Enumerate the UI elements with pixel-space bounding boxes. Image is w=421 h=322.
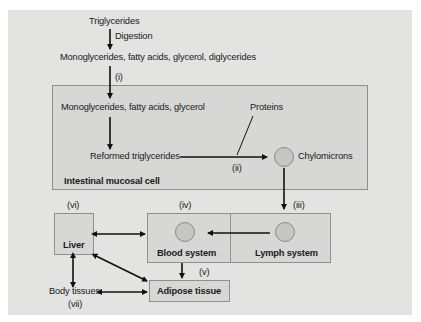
adipose-tissue-label: Adipose tissue (157, 286, 221, 296)
proteins-label: Proteins (250, 102, 283, 112)
blood-system-label: Blood system (157, 248, 216, 258)
body-tissues-label: Body tissues (49, 286, 100, 296)
digestion-products-label: Monoglycerides, fatty acids, glycerol, d… (60, 52, 256, 62)
absorbed-products-label: Monoglycerides, fatty acids, glycerol (61, 102, 205, 112)
liver-adipose-arrow (96, 256, 147, 281)
step-vii-label: (vii) (68, 299, 82, 309)
digestion-label: Digestion (115, 31, 152, 41)
step-iv-label: (iv) (179, 200, 191, 210)
triglycerides-label: Triglycerides (89, 16, 139, 26)
intestinal-cell-label: Intestinal mucosal cell (64, 176, 160, 186)
liver-label: Liver (63, 240, 84, 250)
arrows-layer (0, 0, 421, 322)
step-v-label: (v) (199, 267, 209, 277)
lymph-system-label: Lymph system (255, 248, 318, 258)
chylomicrons-label: Chylomicrons (298, 151, 353, 161)
reformed-triglycerides-label: Reformed triglycerides (90, 151, 180, 161)
step-vi-label: (vi) (67, 200, 79, 210)
proteins-line (237, 116, 253, 155)
step-iii-label: (iii) (293, 200, 305, 210)
step-i-label: (i) (115, 72, 123, 82)
step-ii-label: (ii) (232, 163, 242, 173)
